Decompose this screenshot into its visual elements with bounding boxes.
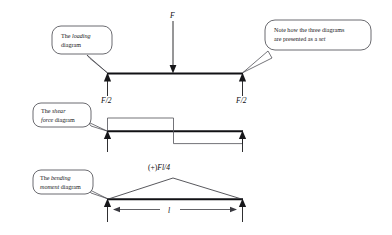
moment-support-right-arrow (239, 199, 246, 223)
callout-moment-line2: moment diagram (40, 184, 81, 190)
reaction-left-arrow (104, 73, 111, 97)
shear-support-right-arrow (239, 131, 246, 153)
callout-note-line2: are presented as a set (274, 36, 326, 42)
beam-diagram-svg: F F/2 F/2 (0, 0, 392, 235)
callout-loading-tail (87, 55, 107, 73)
callout-note-tail (243, 51, 272, 73)
applied-force-label: F (169, 11, 175, 20)
callout-note-bubble (265, 20, 371, 50)
callout-moment-bubble (33, 170, 93, 194)
reaction-right-arrow (239, 73, 246, 97)
loading-diagram-group: F F/2 F/2 (100, 11, 247, 105)
reaction-left-label: F/2 (100, 96, 112, 105)
callout-loading-bubble (52, 26, 112, 54)
callout-moment-line1: The bending (40, 175, 71, 181)
callout-note[interactable]: Note how the three diagrams are presente… (243, 20, 371, 73)
span-dimension-line (113, 207, 237, 212)
figure-canvas: F F/2 F/2 (0, 0, 392, 235)
callout-shear-diagram[interactable]: The shear force diagram (33, 103, 107, 131)
applied-force-arrow (170, 21, 177, 74)
callout-shear-line1: The shear (41, 108, 66, 114)
callout-note-line1: Note how the three diagrams (274, 27, 345, 33)
bending-moment-diagram-group: (+)Fl/4 l (104, 163, 246, 222)
span-dimension-label: l (168, 206, 170, 215)
reaction-right-label: F/2 (235, 96, 247, 105)
callout-shear-line2: force diagram (41, 117, 75, 123)
moment-peak-sign: (+) (148, 163, 158, 172)
moment-support-left-arrow (104, 199, 111, 223)
moment-peak-label: (+)Fl/4 (148, 163, 170, 172)
shear-support-left-arrow (104, 131, 111, 153)
moment-triangle-profile (108, 178, 243, 199)
callout-loading-line1: The loading (61, 33, 91, 39)
shear-force-diagram-group (104, 118, 246, 152)
callout-loading-diagram[interactable]: The loading diagram (52, 26, 112, 73)
callout-loading-line2: diagram (61, 42, 81, 48)
callout-shear-tail (88, 122, 107, 131)
callout-moment-diagram[interactable]: The bending moment diagram (33, 170, 107, 199)
moment-peak-value: Fl/4 (156, 163, 170, 172)
callout-shear-bubble (33, 103, 91, 127)
